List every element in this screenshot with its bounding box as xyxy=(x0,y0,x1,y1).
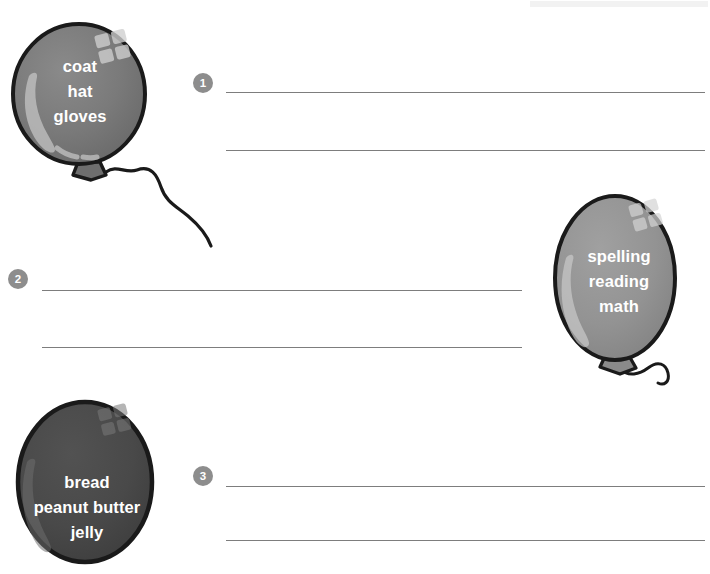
balloon-1 xyxy=(5,14,245,264)
balloon-2-word-1: spelling xyxy=(558,244,680,269)
balloon-1-words: coat hat gloves xyxy=(14,54,146,129)
worksheet-page: coat hat gloves xyxy=(0,0,710,574)
balloon-1-word-3: gloves xyxy=(14,104,146,129)
balloon-3-word-3: jelly xyxy=(8,520,166,545)
balloon-3-word-1: bread xyxy=(8,470,166,495)
balloon-2-word-2: reading xyxy=(558,269,680,294)
answer-writing-line-1b[interactable] xyxy=(226,150,705,151)
scan-artifact xyxy=(530,1,708,7)
balloon-1-word-1: coat xyxy=(14,54,146,79)
answer-number-badge-2: 2 xyxy=(8,269,28,289)
answer-writing-line-2a[interactable] xyxy=(42,290,522,291)
answer-writing-line-3a[interactable] xyxy=(226,486,705,487)
answer-number-badge-3: 3 xyxy=(193,466,213,486)
balloon-3-words: bread peanut butter jelly xyxy=(8,470,166,545)
balloon-2-words: spelling reading math xyxy=(558,244,680,319)
balloon-1-word-2: hat xyxy=(14,79,146,104)
balloon-2-word-3: math xyxy=(558,294,680,319)
answer-writing-line-2b[interactable] xyxy=(42,347,522,348)
answer-writing-line-3b[interactable] xyxy=(226,540,705,541)
answer-number-badge-1: 1 xyxy=(193,73,213,93)
balloon-1-string xyxy=(106,169,211,246)
answer-writing-line-1a[interactable] xyxy=(226,92,705,93)
balloon-3-word-2: peanut butter xyxy=(8,495,166,520)
